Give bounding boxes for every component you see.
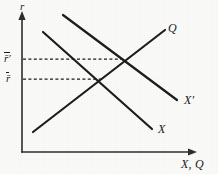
x-axis-arrow-icon <box>188 148 197 155</box>
tick-label-lower-glyph: r̄ <box>6 72 10 84</box>
curve-label-x-prime: X′ <box>184 94 194 106</box>
y-axis-arrow-icon <box>18 11 25 20</box>
curve-x <box>43 32 152 129</box>
curve-label-x: X <box>158 123 166 135</box>
tick-label-r-bar: r̄ <box>6 72 10 84</box>
curve-label-q: Q <box>168 22 177 34</box>
diagram-canvas <box>0 0 218 174</box>
tick-label-upper-glyph: r̄′ <box>4 52 11 64</box>
tick-label-r-bar-prime: r̄′ <box>4 52 11 64</box>
y-axis-label: r <box>20 1 24 12</box>
x-axis-label: X, Q <box>181 158 204 170</box>
curve-x-prime <box>63 15 177 100</box>
economics-diagram: r X, Q Q X′ X r̄′ r̄ <box>0 0 218 174</box>
